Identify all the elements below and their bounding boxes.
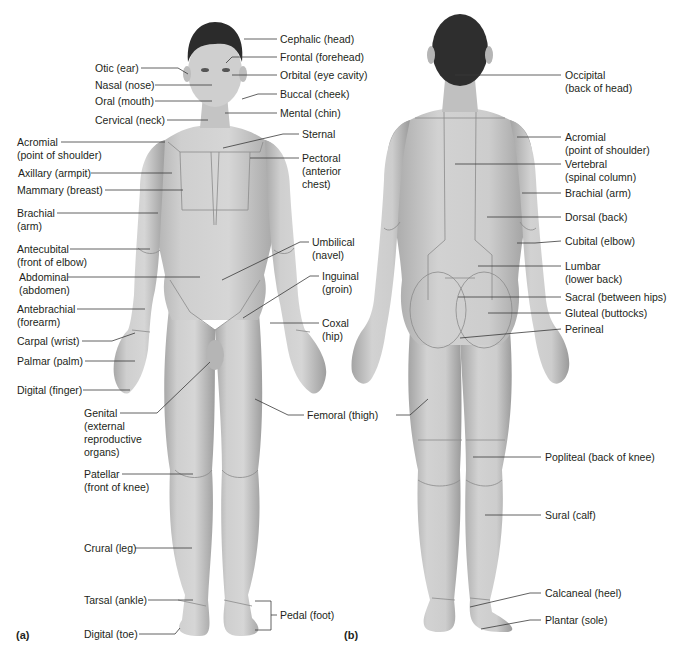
- label-nasal: Nasal (nose): [95, 79, 155, 92]
- label-pedal: Pedal (foot): [280, 609, 334, 622]
- label-frontal: Frontal (forehead): [280, 51, 364, 64]
- label-patellar: Patellar (front of knee): [84, 468, 149, 494]
- label-umbilical: Umbilical (navel): [312, 236, 355, 262]
- label-sternal: Sternal: [302, 128, 335, 141]
- label-axillary: Axillary (armpit): [18, 167, 91, 180]
- panel-label-a: (a): [16, 629, 29, 641]
- label-cubital: Cubital (elbow): [565, 235, 635, 248]
- label-crural: Crural (leg): [84, 542, 137, 555]
- label-digital-toe: Digital (toe): [84, 628, 138, 641]
- label-calcaneal: Calcaneal (heel): [545, 587, 621, 600]
- label-dorsal: Dorsal (back): [565, 211, 627, 224]
- label-tarsal: Tarsal (ankle): [84, 594, 147, 607]
- label-pectoral: Pectoral (anterior chest): [302, 152, 341, 191]
- label-palmar: Palmar (palm): [17, 355, 83, 368]
- label-brachial-posterior: Brachial (arm): [565, 187, 631, 200]
- label-digital-finger: Digital (finger): [17, 384, 82, 397]
- label-mental: Mental (chin): [280, 107, 341, 120]
- label-brachial: Brachial (arm): [17, 207, 55, 233]
- label-cephalic: Cephalic (head): [280, 33, 354, 46]
- label-acromial-posterior: Acromial (point of shoulder): [565, 131, 650, 157]
- label-inguinal: Inguinal (groin): [322, 270, 359, 296]
- label-sural: Sural (calf): [545, 509, 596, 522]
- label-plantar: Plantar (sole): [545, 614, 607, 627]
- label-sacral: Sacral (between hips): [565, 291, 667, 304]
- body-regions-figure: Otic (ear) Nasal (nose) Oral (mouth) Cer…: [0, 0, 676, 669]
- label-antebrachial: Antebrachial (forearm): [17, 303, 75, 329]
- label-femoral: Femoral (thigh): [307, 409, 378, 422]
- label-perineal: Perineal: [565, 323, 604, 336]
- label-oral: Oral (mouth): [95, 95, 154, 108]
- label-vertebral: Vertebral (spinal column): [565, 158, 636, 184]
- label-lumbar: Lumbar (lower back): [565, 260, 622, 286]
- label-acromial: Acromial (point of shoulder): [17, 136, 102, 162]
- label-gluteal: Gluteal (buttocks): [565, 307, 647, 320]
- label-mammary: Mammary (breast): [17, 184, 103, 197]
- panel-label-b: (b): [344, 629, 358, 641]
- label-antecubital: Antecubital (front of elbow): [17, 243, 87, 269]
- label-coxal: Coxal (hip): [322, 317, 349, 343]
- label-cervical: Cervical (neck): [95, 114, 165, 127]
- posterior-figure: [352, 14, 570, 632]
- label-carpal: Carpal (wrist): [17, 335, 79, 348]
- label-abdominal: Abdominal (abdomen): [19, 271, 70, 297]
- label-otic: Otic (ear): [95, 62, 139, 75]
- label-orbital: Orbital (eye cavity): [280, 69, 368, 82]
- label-popliteal: Popliteal (back of knee): [545, 451, 655, 464]
- label-occipital: Occipital (back of head): [565, 69, 632, 95]
- label-genital: Genital (external reproductive organs): [84, 407, 142, 459]
- label-buccal: Buccal (cheek): [280, 88, 349, 101]
